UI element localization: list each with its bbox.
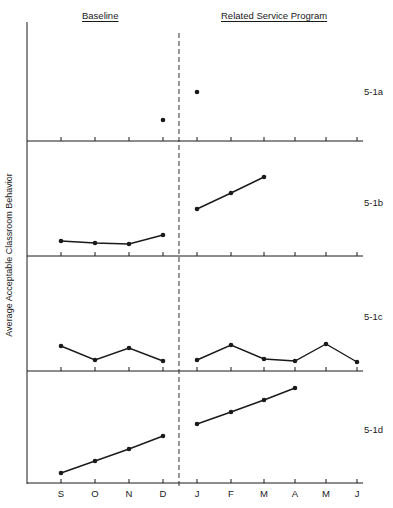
month-label-n: N	[126, 488, 133, 499]
data-point	[59, 344, 64, 349]
data-point	[59, 471, 64, 476]
data-point	[195, 358, 200, 363]
data-point	[161, 434, 166, 439]
data-point	[127, 447, 132, 452]
month-label-j2: J	[355, 488, 360, 499]
month-label-j: J	[195, 488, 200, 499]
data-point	[262, 357, 267, 362]
data-point	[59, 239, 64, 244]
month-label-f: F	[228, 488, 234, 499]
data-point	[229, 410, 234, 415]
data-line	[61, 235, 163, 244]
panel-label-d: 5-1d	[364, 424, 383, 435]
data-point	[324, 342, 329, 347]
month-label-o: O	[91, 488, 98, 499]
data-line	[61, 436, 163, 473]
data-point	[195, 207, 200, 212]
month-label-m2: M	[322, 488, 330, 499]
data-point	[293, 386, 298, 391]
multi-panel-line-chart	[0, 0, 393, 508]
data-point	[127, 242, 132, 247]
data-point	[127, 346, 132, 351]
data-point	[195, 90, 200, 95]
treatment-phase-label: Related Service Program	[221, 10, 327, 21]
data-point	[93, 459, 98, 464]
month-label-d: D	[160, 488, 167, 499]
data-point	[262, 398, 267, 403]
data-point	[161, 359, 166, 364]
month-label-m: M	[260, 488, 268, 499]
data-point	[293, 359, 298, 364]
data-point	[262, 175, 267, 180]
data-point	[195, 422, 200, 427]
panel-label-c: 5-1c	[364, 311, 382, 322]
panel-label-a: 5-1a	[364, 86, 383, 97]
data-point	[93, 358, 98, 363]
data-line	[197, 388, 295, 424]
baseline-phase-label: Baseline	[82, 10, 118, 21]
data-point	[229, 343, 234, 348]
data-point	[355, 360, 360, 365]
y-axis-label: Average Acceptable Classroom Behavior	[4, 173, 14, 336]
panel-label-b: 5-1b	[364, 197, 383, 208]
data-point	[229, 191, 234, 196]
data-point	[93, 241, 98, 246]
month-label-s: S	[58, 488, 64, 499]
data-point	[161, 118, 166, 123]
data-line	[197, 344, 357, 362]
data-point	[161, 233, 166, 238]
month-label-a: A	[292, 488, 298, 499]
data-line	[61, 346, 163, 361]
